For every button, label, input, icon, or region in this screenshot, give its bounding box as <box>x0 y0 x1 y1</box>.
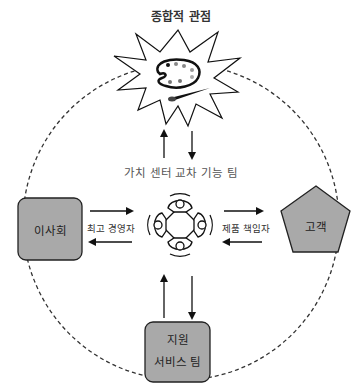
support-label-line2: 서비스 팀 <box>145 353 210 369</box>
board-label: 이사회 <box>18 222 82 238</box>
meeting-table-icon <box>148 194 213 257</box>
center-team-label: 가치 센터 교차 기능 팀 <box>0 164 362 180</box>
diagram-canvas <box>0 0 362 387</box>
diagram-title: 종합적 관점 <box>0 7 362 24</box>
product-owner-edge-label: 제품 책임자 <box>222 221 270 235</box>
customer-label: 고객 <box>281 218 351 234</box>
support-label-line1: 지원 <box>145 331 210 347</box>
ceo-edge-label: 최고 경영자 <box>87 221 135 235</box>
